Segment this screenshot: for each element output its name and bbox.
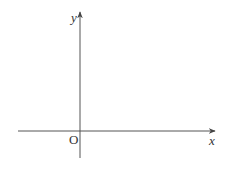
coordinate-plane: y x O [0,0,227,175]
x-axis-label: x [208,133,215,148]
origin-label: O [69,132,78,147]
y-axis-label: y [69,10,77,25]
